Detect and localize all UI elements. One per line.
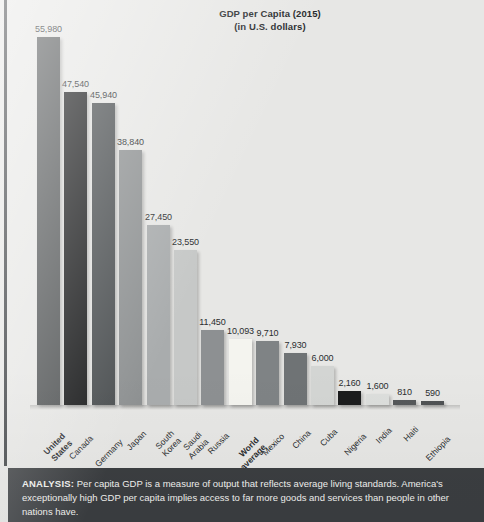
bar-value-label: 38,840 <box>117 137 144 147</box>
bar-category-label: Japan <box>125 429 148 452</box>
bar[interactable] <box>37 37 60 405</box>
bar[interactable] <box>366 394 389 405</box>
bar-group <box>37 37 60 405</box>
left-vertical-rule <box>4 0 7 466</box>
bar-category-label: India <box>374 426 394 446</box>
bar-group <box>119 150 142 405</box>
bar-category-label: Germany <box>93 438 124 469</box>
bar-category-label: China <box>290 429 312 451</box>
bar-group <box>64 92 87 405</box>
bar-value-label: 1,600 <box>366 381 388 391</box>
bar-value-label: 55,980 <box>35 24 62 34</box>
bar[interactable] <box>92 103 115 405</box>
bar-value-label: 7,930 <box>284 340 306 350</box>
analysis-text: ANALYSIS: Per capita GDP is a measure of… <box>22 477 470 519</box>
bar-value-label: 47,540 <box>62 79 89 89</box>
bar[interactable] <box>64 92 87 405</box>
bar-group <box>311 366 334 405</box>
bar[interactable] <box>119 150 142 405</box>
bar-category-label: Nigeria <box>342 432 368 458</box>
bar-group <box>338 391 361 405</box>
bar-group <box>256 341 279 405</box>
bar-group <box>229 339 252 405</box>
bar[interactable] <box>311 366 334 405</box>
bar-category-label: UnitedStates <box>42 432 74 464</box>
bar[interactable] <box>174 250 197 405</box>
bar-value-label: 27,450 <box>145 212 172 222</box>
bar-category-label: Mexico <box>260 432 286 458</box>
bar[interactable] <box>147 225 170 405</box>
bar-category-label: Ethiopia <box>424 435 452 463</box>
analysis-box: ANALYSIS: Per capita GDP is a measure of… <box>8 468 484 522</box>
bar-category-label: Haiti <box>401 425 420 444</box>
bar-value-label: 2,160 <box>338 378 360 388</box>
bar[interactable] <box>338 391 361 405</box>
bar-group <box>92 103 115 405</box>
bar-group <box>201 330 224 405</box>
bar-category-label: Cuba <box>318 427 339 448</box>
bar-group <box>284 353 307 405</box>
analysis-body: Per capita GDP is a measure of output th… <box>22 478 449 517</box>
gdp-per-capita-infographic: GDP per Capita (2015) (in U.S. dollars) … <box>0 0 484 522</box>
bar[interactable] <box>256 341 279 405</box>
analysis-label: ANALYSIS: <box>22 478 74 489</box>
bar-value-label: 590 <box>425 388 440 398</box>
bar-value-label: 810 <box>397 387 412 397</box>
bar-group <box>147 225 170 405</box>
bar-category-label: Worldaverage <box>231 436 267 472</box>
bar-value-label: 9,710 <box>256 328 278 338</box>
bar-group <box>366 394 389 405</box>
bar-category-label: Russia <box>206 431 231 456</box>
bar-category-label: SaudiArabia <box>179 430 210 461</box>
baseline-shadow <box>30 405 460 410</box>
bar-category-label: SouthKorea <box>153 429 182 458</box>
bar[interactable] <box>284 353 307 405</box>
bar-value-label: 11,450 <box>199 317 225 327</box>
bar-value-label: 45,940 <box>90 90 117 100</box>
bar[interactable] <box>201 330 224 405</box>
chart-panel: GDP per Capita (2015) (in U.S. dollars) … <box>0 0 484 466</box>
bar-value-label: 10,093 <box>227 326 254 336</box>
bar-value-label: 6,000 <box>311 353 333 363</box>
bar-group <box>174 250 197 405</box>
bar[interactable] <box>229 339 252 405</box>
bar-value-label: 23,550 <box>172 237 199 247</box>
bar-chart-plot: 55,980UnitedStates47,540Canada45,940Germ… <box>0 0 484 466</box>
